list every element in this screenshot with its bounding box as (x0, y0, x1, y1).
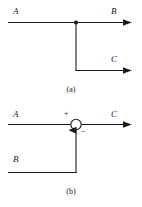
panel-b-sign-plus: + (64, 110, 69, 118)
block-diagram-figure: A B C (a) A + − C B (b) (0, 0, 142, 207)
panel-b-graphics (8, 119, 131, 172)
panel-b-caption: (b) (51, 188, 91, 196)
panel-b-summing-junction-circle (71, 119, 81, 129)
diagram-canvas (0, 0, 142, 207)
panel-b-sign-minus: − (81, 128, 86, 136)
panel-a-label-a: A (13, 7, 19, 16)
panel-b-label-b: B (13, 155, 19, 164)
panel-b-label-c: C (111, 110, 117, 119)
panel-a-caption: (a) (51, 86, 91, 94)
panel-a-label-c: C (111, 55, 117, 64)
panel-a-label-b: B (111, 7, 117, 16)
panel-b-label-a: A (13, 110, 19, 119)
